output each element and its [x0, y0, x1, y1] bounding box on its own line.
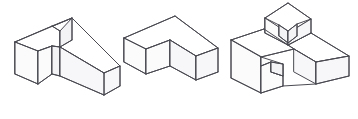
- figure-1-region: [14, 14, 120, 104]
- figure-2-region: [124, 16, 218, 90]
- isometric-drawing-sheet: [0, 0, 358, 119]
- figure-3-region: [231, 3, 350, 96]
